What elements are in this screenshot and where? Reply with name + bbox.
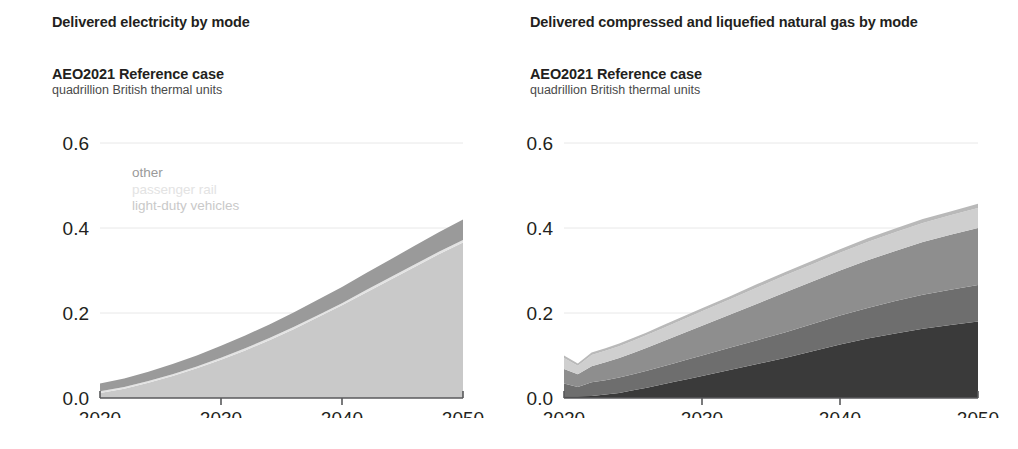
x-tick-label-2040: 2040 xyxy=(321,408,363,418)
panel-subheader-right: AEO2021 Reference case quadrillion Briti… xyxy=(530,66,1000,98)
y-tick-label-0.0: 0.0 xyxy=(63,388,89,409)
panel-header-right: Delivered compressed and liquefied natur… xyxy=(530,14,1000,31)
case-label-left: AEO2021 Reference case xyxy=(52,66,472,83)
units-label-left: quadrillion British thermal units xyxy=(52,83,472,98)
page-title-right: Delivered compressed and liquefied natur… xyxy=(530,14,1000,31)
legend-left-item-0: other xyxy=(132,165,239,182)
x-tick-label-2020: 2020 xyxy=(543,408,585,418)
y-tick-label-0.2: 0.2 xyxy=(527,303,553,324)
legend-left-item-1: passenger rail xyxy=(132,182,239,199)
x-tick-label-2030: 2030 xyxy=(200,408,242,418)
chart-panel-delivered-electricity: Delivered electricity by mode AEO2021 Re… xyxy=(0,0,500,449)
case-label-right: AEO2021 Reference case xyxy=(530,66,1000,83)
y-tick-label-0.4: 0.4 xyxy=(527,218,554,239)
x-tick-label-2040: 2040 xyxy=(819,408,861,418)
y-tick-label-0.6: 0.6 xyxy=(63,133,89,154)
plot-area-right: 20202030204020500.00.20.40.6 xyxy=(508,118,1008,418)
x-tick-label-2050: 2050 xyxy=(957,408,999,418)
legend-left: otherpassenger raillight-duty vehicles xyxy=(132,165,239,215)
chart-panel-delivered-cng-lng: Delivered compressed and liquefied natur… xyxy=(500,0,1018,449)
y-tick-label-0.4: 0.4 xyxy=(63,218,90,239)
y-tick-label-0.2: 0.2 xyxy=(63,303,89,324)
x-tick-label-2020: 2020 xyxy=(79,408,121,418)
y-tick-label-0.0: 0.0 xyxy=(527,388,553,409)
legend-left-item-2: light-duty vehicles xyxy=(132,198,239,215)
units-label-right: quadrillion British thermal units xyxy=(530,83,1000,98)
x-tick-label-2030: 2030 xyxy=(681,408,723,418)
plot-area-left: 20202030204020500.00.20.40.6 xyxy=(8,118,492,418)
area-chart-right: 20202030204020500.00.20.40.6 xyxy=(508,118,1008,418)
y-tick-label-0.6: 0.6 xyxy=(527,133,553,154)
panel-header-left: Delivered electricity by mode xyxy=(52,14,472,31)
x-tick-label-2050: 2050 xyxy=(442,408,484,418)
area-chart-left: 20202030204020500.00.20.40.6 xyxy=(8,118,492,418)
panel-subheader-left: AEO2021 Reference case quadrillion Briti… xyxy=(52,66,472,98)
page-title-left: Delivered electricity by mode xyxy=(52,14,472,31)
